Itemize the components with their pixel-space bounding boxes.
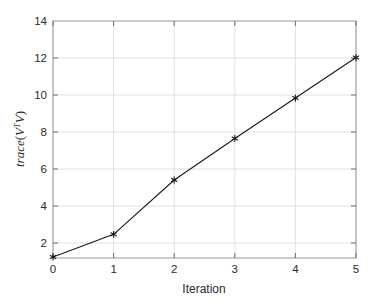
ytick-label-6: 6	[41, 163, 47, 175]
y-axis-label-close-paren: )	[12, 111, 27, 115]
x-axis-label: Iteration	[182, 282, 225, 296]
ytick-label-8: 8	[41, 126, 47, 138]
xtick-label-5: 5	[353, 263, 359, 275]
xtick-label-3: 3	[232, 263, 238, 275]
y-axis-label: trace(VTV)	[12, 111, 27, 167]
ytick-label-12: 12	[34, 52, 47, 64]
figure-canvas: 2 4 6 8 10 12 14 0 1 2 3 4 5 Iteration t…	[0, 0, 379, 305]
ytick-label-10: 10	[34, 89, 47, 101]
svg-text:trace(VTV): trace(VTV)	[12, 111, 27, 167]
xtick-label-0: 0	[50, 263, 56, 275]
ytick-label-14: 14	[34, 15, 47, 27]
chart-background	[0, 0, 379, 305]
xtick-label-4: 4	[292, 263, 299, 275]
ytick-label-4: 4	[41, 200, 48, 212]
xtick-label-1: 1	[110, 263, 116, 275]
line-chart: 2 4 6 8 10 12 14 0 1 2 3 4 5 Iteration t…	[0, 0, 379, 305]
xtick-label-2: 2	[171, 263, 177, 275]
ytick-label-2: 2	[41, 237, 47, 249]
y-axis-label-func: trace	[12, 140, 27, 167]
